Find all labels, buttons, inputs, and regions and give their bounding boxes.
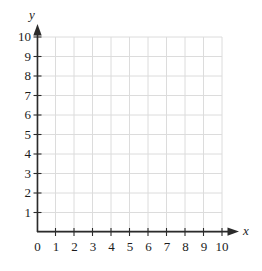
y-tick-label-1: 1 bbox=[0, 206, 31, 219]
y-tick-label-6: 6 bbox=[0, 108, 31, 121]
y-tick-label-4: 4 bbox=[0, 147, 31, 160]
y-tick-label-7: 7 bbox=[0, 89, 31, 102]
y-tick-label-3: 3 bbox=[0, 167, 31, 180]
x-axis-name-label: x bbox=[243, 224, 249, 237]
x-axis-line bbox=[37, 227, 239, 235]
y-tick-label-5: 5 bbox=[0, 128, 31, 141]
plot-area-svg bbox=[0, 0, 262, 271]
y-axis-line bbox=[33, 24, 41, 232]
y-tick-label-9: 9 bbox=[0, 50, 31, 63]
y-tick-label-2: 2 bbox=[0, 186, 31, 199]
y-tick-label-8: 8 bbox=[0, 69, 31, 82]
coordinate-grid-figure: 10 9 8 7 6 5 4 3 2 1 0 1 2 3 4 5 6 7 8 9… bbox=[0, 0, 262, 271]
y-axis-name-label: y bbox=[29, 8, 35, 21]
y-tick-label-10: 10 bbox=[0, 30, 31, 43]
x-tick-label-10: 10 bbox=[212, 240, 233, 253]
